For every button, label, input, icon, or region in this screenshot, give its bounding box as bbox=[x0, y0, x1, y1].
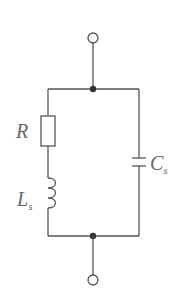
left-branch bbox=[41, 89, 56, 236]
capacitor-Cs bbox=[132, 158, 146, 166]
top-terminal bbox=[88, 33, 98, 89]
top-junction-dot bbox=[90, 86, 96, 92]
right-branch bbox=[132, 89, 146, 236]
bottom-terminal bbox=[88, 236, 98, 285]
label-Ls: Ls bbox=[16, 188, 32, 212]
resistor-R bbox=[41, 116, 55, 146]
label-R: R bbox=[15, 120, 28, 142]
circuit-diagram: R Ls Cs bbox=[0, 0, 183, 308]
inductor-Ls bbox=[48, 178, 56, 208]
circuit-svg: R Ls Cs bbox=[0, 0, 183, 308]
label-Cs: Cs bbox=[150, 152, 168, 176]
